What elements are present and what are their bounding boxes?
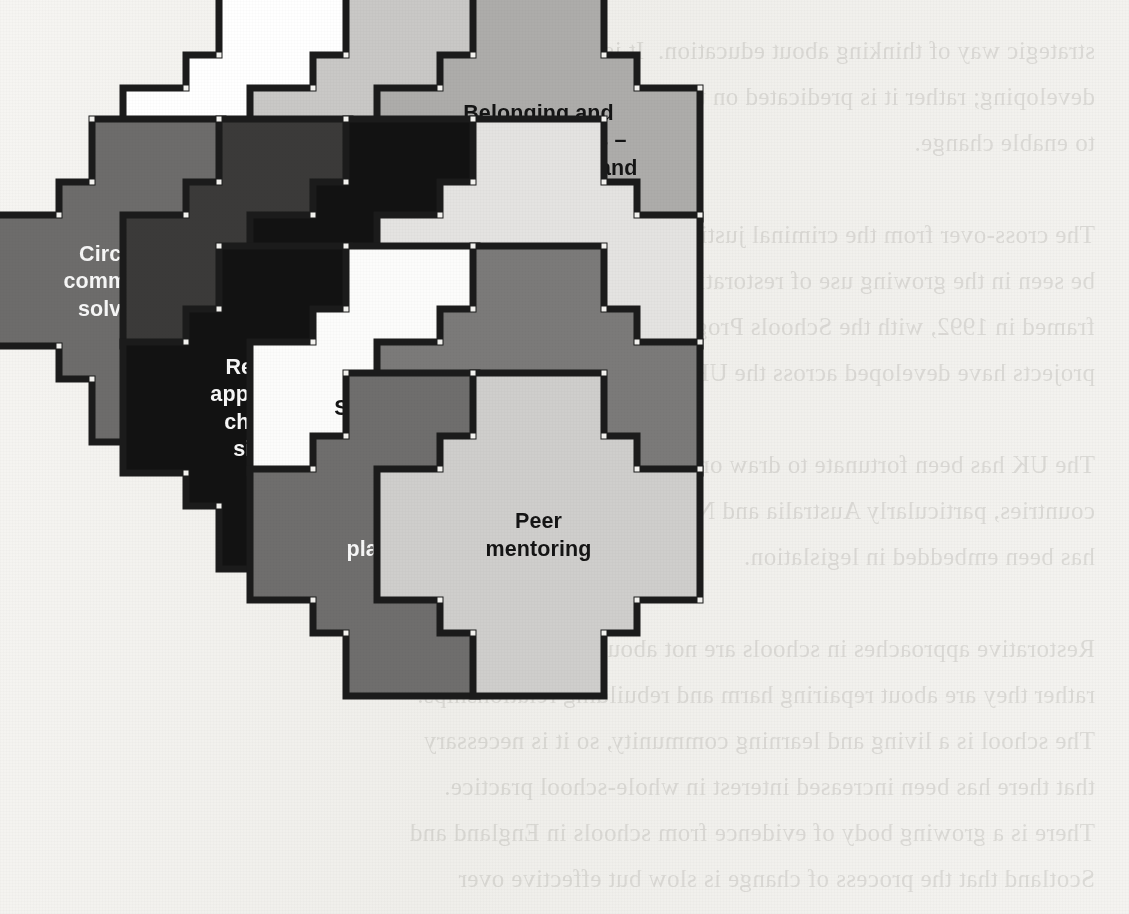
piece-corner-peg	[602, 307, 607, 312]
piece-corner-peg	[217, 244, 222, 249]
piece-corner-peg	[344, 434, 349, 439]
piece-corner-peg	[344, 53, 349, 58]
piece-corner-peg	[698, 598, 703, 603]
piece-corner-peg	[698, 467, 703, 472]
piece-corner-peg	[471, 631, 476, 636]
piece-corner-peg	[90, 377, 95, 382]
piece-corner-peg	[602, 371, 607, 376]
piece-corner-peg	[311, 340, 316, 345]
piece-corner-peg	[438, 340, 443, 345]
piece-corner-peg	[471, 180, 476, 185]
piece-corner-peg	[344, 631, 349, 636]
piece-corner-peg	[217, 53, 222, 58]
piece-corner-peg	[471, 371, 476, 376]
piece-corner-peg	[471, 434, 476, 439]
piece-corner-peg	[635, 598, 640, 603]
piece-corner-peg	[184, 340, 189, 345]
piece-corner-peg	[602, 631, 607, 636]
piece-corner-peg	[311, 467, 316, 472]
piece-corner-peg	[635, 340, 640, 345]
piece-corner-peg	[438, 86, 443, 91]
piece-corner-peg	[635, 86, 640, 91]
piece-corner-peg	[471, 117, 476, 122]
piece-corner-peg	[311, 213, 316, 218]
piece-corner-peg	[311, 598, 316, 603]
piece-corner-peg	[602, 53, 607, 58]
piece-corner-peg	[57, 344, 62, 349]
piece-corner-peg	[471, 53, 476, 58]
piece-corner-peg	[90, 117, 95, 122]
piece-corner-peg	[344, 117, 349, 122]
piece-corner-peg	[698, 86, 703, 91]
piece-corner-peg	[344, 180, 349, 185]
jigsaw-figure: An ethos ofcare and justiceA listeningsc…	[0, 0, 1129, 914]
piece-corner-peg	[698, 213, 703, 218]
piece-corner-peg	[184, 213, 189, 218]
piece-corner-peg	[90, 180, 95, 185]
piece-corner-peg	[217, 504, 222, 509]
piece-corner-peg	[344, 371, 349, 376]
piece-corner-peg	[217, 117, 222, 122]
piece-corner-peg	[602, 180, 607, 185]
piece-corner-peg	[344, 244, 349, 249]
piece-corner-peg	[57, 213, 62, 218]
piece-corner-peg	[217, 180, 222, 185]
piece-corner-peg	[635, 467, 640, 472]
piece-corner-peg	[184, 471, 189, 476]
piece-corner-peg	[217, 307, 222, 312]
piece-corner-peg	[438, 213, 443, 218]
piece-corner-peg	[311, 86, 316, 91]
piece-corner-peg	[602, 117, 607, 122]
piece-corner-peg	[635, 213, 640, 218]
piece-corner-peg	[438, 598, 443, 603]
piece-corner-peg	[184, 86, 189, 91]
piece-corner-peg	[438, 467, 443, 472]
piece-corner-peg	[602, 244, 607, 249]
piece-corner-peg	[471, 307, 476, 312]
piece-corner-peg	[602, 434, 607, 439]
piece-corner-peg	[344, 307, 349, 312]
jigsaw-canvas: An ethos ofcare and justiceA listeningsc…	[0, 0, 1129, 914]
piece-corner-peg	[698, 340, 703, 345]
piece-corner-peg	[471, 244, 476, 249]
